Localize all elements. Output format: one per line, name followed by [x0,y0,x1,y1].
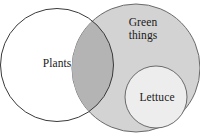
set-circle-lettuce [125,66,187,128]
venn-diagram-figure: Plants Green things Lettuce [0,0,200,139]
venn-diagram-canvas [0,0,200,139]
